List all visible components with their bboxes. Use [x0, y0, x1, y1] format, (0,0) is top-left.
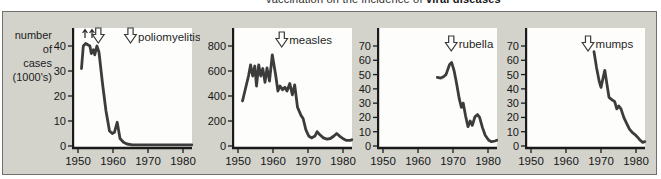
svg-text:1950: 1950 — [65, 155, 91, 167]
svg-text:0: 0 — [60, 140, 66, 152]
svg-text:0: 0 — [220, 140, 226, 152]
svg-text:10: 10 — [359, 126, 371, 138]
caption-fragment: vaccination on the incidence of — [266, 0, 426, 5]
svg-text:1980: 1980 — [170, 155, 196, 167]
svg-text:1960: 1960 — [405, 155, 431, 167]
svg-text:0: 0 — [513, 140, 519, 152]
disease-incidence-figure: number of cases (1000's) 010203040195019… — [2, 11, 657, 175]
svg-text:30: 30 — [359, 97, 371, 109]
svg-text:10: 10 — [507, 126, 519, 138]
svg-text:70: 70 — [359, 40, 371, 52]
svg-text:1960: 1960 — [260, 155, 286, 167]
svg-text:1970: 1970 — [135, 155, 161, 167]
svg-text:0: 0 — [365, 140, 371, 152]
measles-chart: 02004006008001950196019701980measles — [198, 22, 360, 172]
svg-text:1970: 1970 — [295, 155, 321, 167]
svg-text:mumps: mumps — [596, 38, 634, 50]
svg-text:800: 800 — [208, 40, 226, 52]
svg-text:30: 30 — [507, 97, 519, 109]
mumps-chart: 0102030405060701950196019701980mumps — [491, 22, 653, 172]
svg-text:400: 400 — [208, 90, 226, 102]
svg-text:50: 50 — [359, 69, 371, 81]
svg-text:poliomyelitis: poliomyelitis — [138, 31, 200, 43]
svg-text:measles: measles — [289, 34, 332, 46]
svg-text:30: 30 — [54, 65, 66, 77]
svg-text:1970: 1970 — [440, 155, 466, 167]
rubella-chart: 0102030405060701950196019701980rubella — [343, 22, 505, 172]
figure-caption-clipped: vaccination on the incidence of viral di… — [0, 0, 661, 11]
svg-text:1950: 1950 — [370, 155, 396, 167]
svg-text:70: 70 — [507, 40, 519, 52]
svg-text:20: 20 — [507, 111, 519, 123]
svg-text:1960: 1960 — [553, 155, 579, 167]
poliomyelitis-chart: 0102030401950196019701980poliomyelitis — [38, 22, 200, 172]
svg-text:600: 600 — [208, 65, 226, 77]
svg-text:20: 20 — [359, 111, 371, 123]
svg-text:60: 60 — [507, 54, 519, 66]
svg-text:rubella: rubella — [459, 38, 494, 50]
caption-fragment-bold: viral diseases — [426, 0, 501, 5]
svg-text:20: 20 — [54, 90, 66, 102]
svg-text:40: 40 — [54, 40, 66, 52]
caption-text: vaccination on the incidence of viral di… — [266, 0, 501, 5]
svg-text:1960: 1960 — [100, 155, 126, 167]
svg-text:40: 40 — [359, 83, 371, 95]
svg-text:1950: 1950 — [225, 155, 251, 167]
svg-text:1970: 1970 — [588, 155, 614, 167]
svg-text:1950: 1950 — [518, 155, 544, 167]
svg-text:1980: 1980 — [623, 155, 649, 167]
svg-text:40: 40 — [507, 83, 519, 95]
svg-text:50: 50 — [507, 69, 519, 81]
svg-text:200: 200 — [208, 115, 226, 127]
svg-text:10: 10 — [54, 115, 66, 127]
svg-text:60: 60 — [359, 54, 371, 66]
